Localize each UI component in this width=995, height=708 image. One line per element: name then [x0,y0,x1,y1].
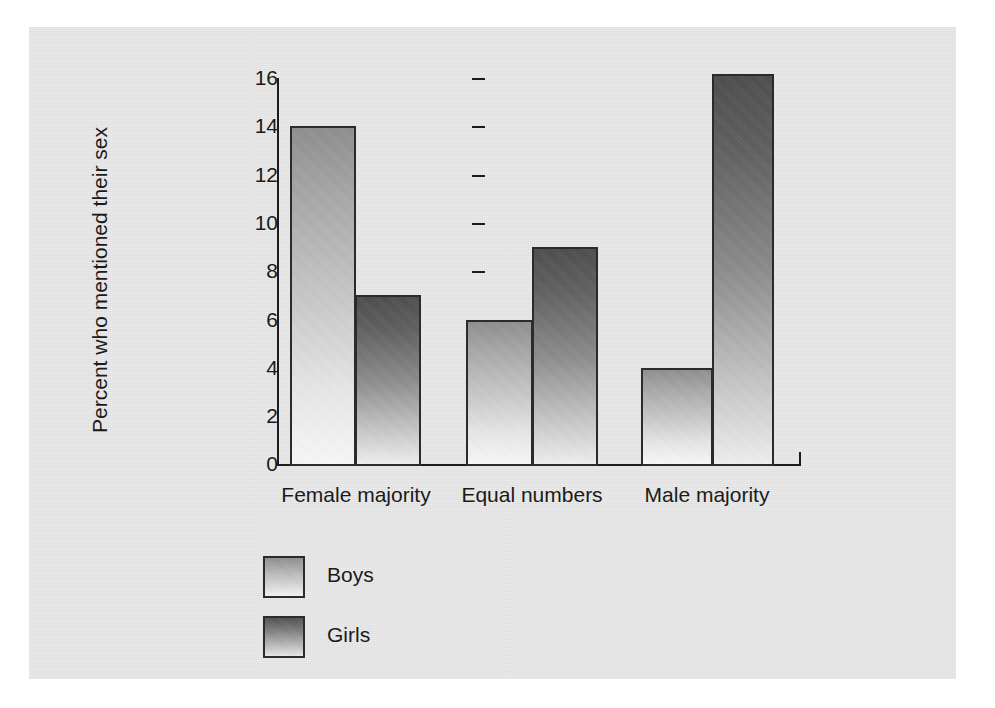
y-tick-mark-8 [472,271,485,273]
y-tick-mark-12 [472,175,485,177]
bar-boys-equal-numbers [466,320,533,466]
plot-area: 16 14 12 10 8 6 4 2 0 [0,0,995,708]
y-tick-mark-14 [472,126,485,128]
legend-label-boys: Boys [327,563,374,587]
y-tick-label-2: 2 [232,405,278,426]
legend-swatch-boys [263,556,305,598]
y-tick-label-14: 14 [232,115,278,136]
x-axis-end-tick [799,452,801,465]
legend-swatch-girls [263,616,305,658]
bar-girls-equal-numbers [532,247,598,466]
bar-girls-female-majority [355,295,421,466]
y-tick-mark-10 [472,223,485,225]
bar-boys-female-majority [290,126,356,466]
y-tick-label-0: 0 [232,453,278,474]
y-tick-label-10: 10 [232,212,278,233]
y-tick-label-16: 16 [232,67,278,88]
y-axis-title: Percent who mentioned their sex [88,70,112,490]
x-category-label-male-majority: Male majority [607,483,807,507]
x-category-label-female-majority: Female majority [256,483,456,507]
y-tick-mark-16 [472,78,485,80]
y-tick-label-4: 4 [232,357,278,378]
y-tick-label-12: 12 [232,164,278,185]
y-tick-label-6: 6 [232,309,278,330]
figure: 16 14 12 10 8 6 4 2 0 [0,0,995,708]
legend-label-girls: Girls [327,623,370,647]
x-category-label-equal-numbers: Equal numbers [432,483,632,507]
y-tick-label-8: 8 [232,260,278,281]
bar-girls-male-majority [712,74,774,466]
bar-boys-male-majority [641,368,713,466]
